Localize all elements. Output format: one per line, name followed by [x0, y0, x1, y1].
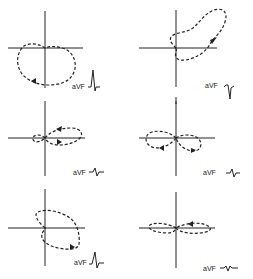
lead-label: aVF: [203, 265, 216, 272]
vector-loop: [18, 44, 76, 85]
lead-label: aVF: [72, 83, 85, 90]
vector-loop: [170, 9, 226, 60]
vector-loop-right-lobe: [45, 128, 82, 145]
ecg-complex-icon: [89, 168, 104, 176]
vector-loop-left-lobe: [146, 131, 176, 148]
ecg-complex-icon: [220, 266, 238, 271]
lead-label: aVF: [74, 259, 87, 266]
vector-loop: [36, 210, 79, 249]
panel-1: aVF: [8, 11, 100, 91]
panel-6: aVF: [139, 192, 238, 272]
direction-arrow-icon: [56, 126, 62, 132]
ecg-complex-icon: [226, 169, 240, 177]
direction-arrow-icon: [57, 139, 62, 145]
direction-arrow-icon: [159, 145, 164, 151]
direction-arrow-icon: [31, 78, 36, 84]
lead-label: aVF: [203, 169, 216, 176]
lead-label: aVF: [73, 169, 86, 176]
panel-4: aVF: [139, 101, 240, 177]
vectorcardiogram-figure: aVF aVF aVF aVF aVF: [0, 0, 253, 279]
lead-label: aVF: [205, 82, 218, 89]
panel-2: aVF: [139, 9, 234, 104]
direction-arrow-icon: [191, 148, 196, 153]
direction-arrow-icon: [188, 221, 193, 227]
vector-loop-right-lobe: [176, 135, 201, 151]
ecg-complex-icon: [88, 70, 100, 91]
panel-3: aVF: [8, 101, 104, 176]
panel-5: aVF: [8, 189, 104, 268]
ecg-complex-icon: [224, 85, 234, 99]
ecg-complex-icon: [89, 252, 104, 268]
